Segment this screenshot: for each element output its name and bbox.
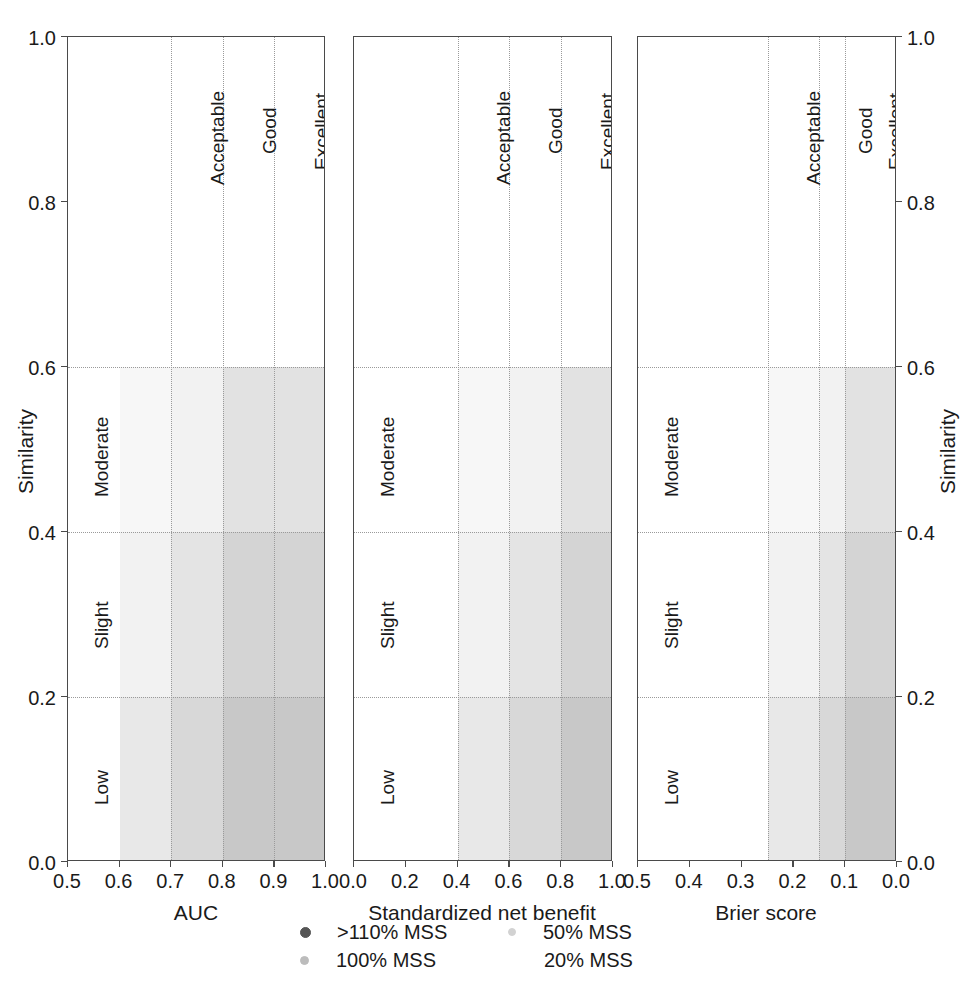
x-tick xyxy=(170,861,171,867)
gridline-horizontal xyxy=(638,367,895,368)
x-tick xyxy=(325,861,326,867)
gridline-vertical-acceptable xyxy=(768,37,769,860)
legend-marker-dot xyxy=(300,956,309,965)
threshold-label-good: Good xyxy=(260,108,279,154)
shade-cell xyxy=(768,367,820,532)
x-tick xyxy=(405,861,406,867)
y-tick-label: 0.0 xyxy=(0,853,56,873)
x-tick xyxy=(457,861,458,867)
shade-cell xyxy=(561,532,612,697)
figure-canvas: Acceptable Good Excellent Moderate Sligh… xyxy=(0,0,962,989)
shade-cell xyxy=(120,697,172,861)
legend-entry[interactable]: 20% MSS xyxy=(508,950,633,970)
shade-cell xyxy=(509,532,561,697)
threshold-label-acceptable: Acceptable xyxy=(804,91,823,185)
band-label-low: Low xyxy=(92,770,111,805)
y-tick xyxy=(61,201,67,202)
shade-cell xyxy=(458,367,510,532)
shade-cell xyxy=(171,532,223,697)
legend-label: 100% MSS xyxy=(336,950,436,970)
x-tick xyxy=(689,861,690,867)
band-label-slight: Slight xyxy=(92,601,111,649)
y-tick-label-right: 1.0 xyxy=(907,28,962,48)
gridline-vertical-acceptable xyxy=(171,37,172,860)
band-label-slight: Slight xyxy=(378,601,397,649)
legend-marker-dot xyxy=(300,927,311,938)
shade-cell xyxy=(458,532,510,697)
y-tick-label-right: 0.4 xyxy=(907,523,962,543)
shade-cell xyxy=(509,367,561,532)
threshold-label-good: Good xyxy=(856,108,875,154)
shade-cell xyxy=(768,697,820,861)
y-tick-label: 1.0 xyxy=(0,28,56,48)
band-label-low: Low xyxy=(662,770,681,805)
x-tick xyxy=(353,861,354,867)
plot-area-auc: Acceptable Good Excellent Moderate Sligh… xyxy=(67,36,325,861)
legend-label: 50% MSS xyxy=(543,922,632,942)
y-tick-label-right: 0.0 xyxy=(907,853,962,873)
band-label-moderate: Moderate xyxy=(662,417,681,497)
gridline-horizontal xyxy=(68,532,324,533)
gridline-vertical-acceptable xyxy=(458,37,459,860)
y-tick-label: 0.6 xyxy=(0,358,56,378)
band-label-moderate: Moderate xyxy=(92,417,111,497)
gridline-horizontal xyxy=(354,367,611,368)
x-tick xyxy=(560,861,561,867)
x-tick xyxy=(119,861,120,867)
shade-cell xyxy=(171,697,223,861)
legend-entry[interactable]: 100% MSS xyxy=(300,950,436,970)
x-tick xyxy=(273,861,274,867)
legend-label: >110% MSS xyxy=(337,922,447,942)
shade-cell xyxy=(819,697,845,861)
x-tick xyxy=(637,861,638,867)
gridline-horizontal xyxy=(354,532,611,533)
legend-entry[interactable]: >110% MSS xyxy=(300,922,447,942)
shade-cell xyxy=(845,697,896,861)
shade-cell xyxy=(120,532,172,697)
threshold-label-acceptable: Acceptable xyxy=(494,91,513,185)
x-axis-title-brier-score: Brier score xyxy=(626,902,906,923)
y-tick-right xyxy=(896,531,902,532)
legend-label: 20% MSS xyxy=(544,950,633,970)
y-axis-title-left: Similarity xyxy=(15,382,36,522)
shade-cell xyxy=(171,367,223,532)
shade-cell xyxy=(819,367,845,532)
x-tick xyxy=(844,861,845,867)
threshold-label-good: Good xyxy=(546,108,565,154)
shade-cell xyxy=(120,367,172,532)
y-tick-label-right: 0.6 xyxy=(907,358,962,378)
gridline-vertical-excellent xyxy=(845,37,846,860)
shade-cell xyxy=(509,697,561,861)
gridline-vertical-excellent xyxy=(274,37,275,860)
gridline-horizontal xyxy=(68,697,324,698)
threshold-label-excellent: Excellent xyxy=(312,93,325,170)
legend-marker-dot xyxy=(508,957,515,964)
y-tick-label: 0.2 xyxy=(0,688,56,708)
x-axis-title-auc: AUC xyxy=(66,902,326,923)
shade-cell xyxy=(819,532,845,697)
band-label-moderate: Moderate xyxy=(378,417,397,497)
y-tick xyxy=(61,696,67,697)
y-tick-label-right: 0.2 xyxy=(907,688,962,708)
legend-entry[interactable]: 50% MSS xyxy=(508,922,632,942)
legend-marker-dot xyxy=(508,928,516,936)
shade-cell xyxy=(768,532,820,697)
threshold-label-acceptable: Acceptable xyxy=(208,91,227,185)
shade-cell xyxy=(561,697,612,861)
y-tick-right xyxy=(896,696,902,697)
y-tick-right xyxy=(896,861,902,862)
shade-cell xyxy=(845,532,896,697)
shade-cell xyxy=(458,697,510,861)
x-tick xyxy=(222,861,223,867)
y-tick xyxy=(61,531,67,532)
y-tick-label: 0.4 xyxy=(0,523,56,543)
gridline-vertical-excellent xyxy=(561,37,562,860)
x-tick xyxy=(741,861,742,867)
shade-cell xyxy=(561,367,612,532)
x-axis-title-standardized-net-benefit: Standardized net benefit xyxy=(342,902,622,923)
y-tick-label-right: 0.8 xyxy=(907,193,962,213)
threshold-label-excellent: Excellent xyxy=(598,93,612,170)
threshold-label-excellent: Excellent xyxy=(886,93,896,170)
gridline-horizontal xyxy=(68,367,324,368)
y-tick-label: 0.8 xyxy=(0,193,56,213)
